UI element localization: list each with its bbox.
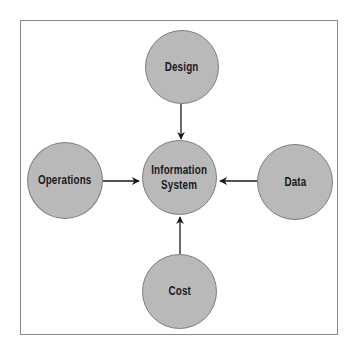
node-cost-label: Cost: [168, 284, 191, 299]
node-data: Data: [257, 144, 333, 220]
node-data-label: Data: [284, 175, 306, 190]
node-operations: Operations: [27, 142, 103, 219]
node-information-system: Information System: [142, 140, 217, 215]
node-operations-label: Operations: [38, 173, 92, 188]
node-design-label: Design: [165, 60, 199, 75]
node-cost: Cost: [142, 254, 217, 329]
node-design: Design: [145, 30, 219, 104]
node-information-system-label: Information System: [152, 163, 208, 193]
